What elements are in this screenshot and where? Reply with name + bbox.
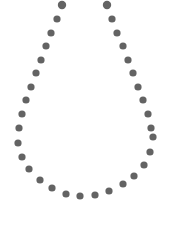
outline-dot [134, 83, 141, 90]
outline-dot [113, 29, 120, 36]
outline-dot [18, 153, 25, 160]
outline-dot [105, 187, 112, 194]
outline-dot [91, 191, 98, 198]
outline-dot [36, 176, 43, 183]
outline-dot [15, 124, 22, 131]
outline-dot [25, 165, 32, 172]
outline-dot [42, 42, 49, 49]
outline-dot [130, 172, 137, 179]
outline-dot [27, 83, 34, 90]
outline-dot [119, 42, 126, 49]
outline-dot [144, 110, 151, 117]
outline-dot [139, 96, 146, 103]
outline-dot [48, 184, 55, 191]
outline-dot [47, 29, 54, 36]
outline-dot [149, 133, 156, 140]
dot-outline [14, 1, 156, 200]
outline-dot [32, 69, 39, 76]
dotted-teardrop-figure [0, 0, 178, 227]
outline-dot [146, 148, 153, 155]
outline-dot [62, 190, 69, 197]
outline-dot [140, 161, 147, 168]
outline-dot [129, 69, 136, 76]
outline-dot [147, 124, 154, 131]
outline-dot [18, 110, 25, 117]
outline-dot [58, 1, 66, 9]
outline-dot [108, 15, 115, 22]
outline-dot [53, 15, 60, 22]
outline-dot [119, 180, 126, 187]
outline-dot [22, 96, 29, 103]
outline-dot [103, 1, 111, 9]
outline-dot [76, 192, 83, 199]
outline-dot [124, 56, 131, 63]
outline-dot [14, 139, 21, 146]
outline-dot [37, 56, 44, 63]
